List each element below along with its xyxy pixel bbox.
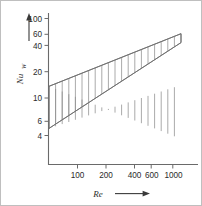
- chart-figure: 100 60 40 20 10 6 4 Nu W 100 200 400 600…: [0, 0, 202, 206]
- correlation-band: [49, 21, 181, 151]
- y-tick-label-100: 100: [28, 15, 42, 24]
- x-axis-ticks: [78, 165, 173, 169]
- y-axis-ticks: [45, 19, 49, 136]
- plot-svg: 100 60 40 20 10 6 4 Nu W 100 200 400 600…: [1, 1, 202, 206]
- x-axis-arrow-icon: [115, 191, 150, 197]
- y-tick-label-6: 6: [37, 117, 42, 126]
- y-tick-label-4: 4: [37, 132, 42, 141]
- x-tick-label-600: 600: [145, 171, 159, 180]
- y-tick-label-60: 60: [33, 30, 43, 39]
- x-tick-label-200: 200: [99, 171, 113, 180]
- y-tick-label-10: 10: [33, 94, 43, 103]
- x-tick-label-100: 100: [71, 171, 85, 180]
- y-axis-title: Nu W: [15, 63, 27, 85]
- y-axis-title-subscript: W: [20, 63, 27, 69]
- band-hatch-lines: [56, 87, 175, 136]
- x-tick-label-1000: 1000: [164, 171, 183, 180]
- y-axis-title-main: Nu: [15, 73, 25, 85]
- x-axis-title: Re: [92, 189, 103, 199]
- y-tick-label-20: 20: [33, 68, 43, 77]
- x-tick-label-400: 400: [128, 171, 142, 180]
- y-tick-label-40: 40: [33, 42, 43, 51]
